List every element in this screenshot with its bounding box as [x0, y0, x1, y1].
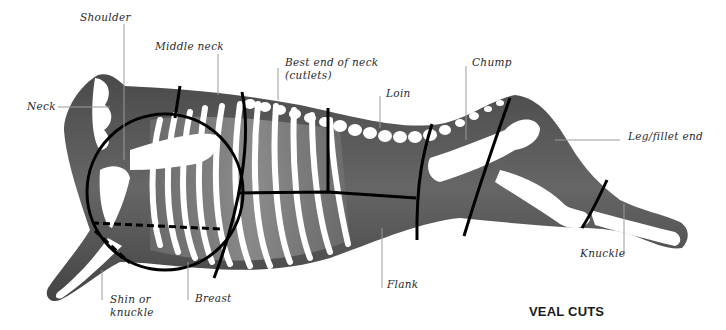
carcass-illustration: [0, 0, 726, 330]
label-knuckle: Knuckle: [580, 247, 625, 260]
label-shin-line2: knuckle: [110, 306, 154, 319]
label-best-end-line1: Best end of neck: [285, 56, 378, 69]
label-breast: Breast: [195, 292, 232, 305]
label-chump: Chump: [472, 56, 512, 69]
label-middle-neck: Middle neck: [155, 40, 224, 53]
label-shin-line1: Shin or: [110, 293, 154, 306]
label-leg-fillet-end: Leg/fillet end: [628, 130, 703, 143]
label-best-end-of-neck: Best end of neck (cutlets): [285, 56, 378, 82]
label-shin-or-knuckle: Shin or knuckle: [110, 293, 154, 319]
veal-cuts-diagram: Shoulder Middle neck Best end of neck (c…: [0, 0, 726, 330]
label-neck: Neck: [27, 100, 56, 113]
label-best-end-line2: (cutlets): [285, 69, 378, 82]
label-shoulder: Shoulder: [80, 11, 131, 24]
label-flank: Flank: [387, 278, 419, 291]
diagram-title: VEAL CUTS: [529, 304, 604, 319]
label-loin: Loin: [386, 87, 411, 100]
